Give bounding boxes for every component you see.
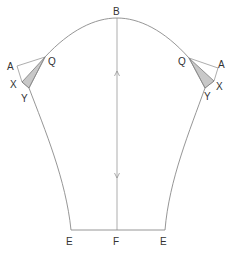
label-b: B	[113, 6, 120, 17]
label-left-y: Y	[21, 93, 28, 104]
left-dart	[17, 57, 45, 88]
left-underarm-seam	[29, 88, 71, 230]
label-hem-right-e: E	[160, 236, 167, 247]
label-right-a: A	[218, 59, 225, 70]
label-left-a: A	[7, 61, 14, 72]
label-hem-left-e: E	[66, 236, 73, 247]
label-left-q: Q	[48, 56, 56, 67]
label-hem-f: F	[113, 236, 119, 247]
label-right-x: X	[216, 81, 223, 92]
sleeve-pattern-diagram: B Q A X Y Q A X Y E F E	[0, 0, 229, 254]
right-dart	[189, 58, 218, 88]
label-right-y: Y	[204, 91, 211, 102]
label-right-q: Q	[178, 56, 186, 67]
right-underarm-seam	[165, 88, 205, 230]
label-left-x: X	[10, 79, 17, 90]
